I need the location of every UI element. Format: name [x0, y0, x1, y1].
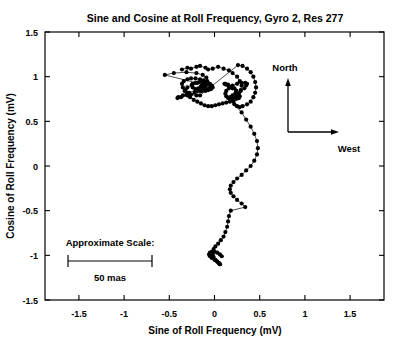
scale-bar-title: Approximate Scale: [66, 237, 155, 248]
chart-title: Sine and Cosine at Roll Frequency, Gyro … [87, 12, 344, 24]
compass-north-label: North [272, 62, 298, 73]
data-point [229, 209, 233, 213]
data-point [201, 73, 205, 77]
data-point [254, 85, 258, 89]
data-point [202, 103, 206, 107]
data-point [206, 104, 210, 108]
scatter-plot-svg: Sine and Cosine at Roll Frequency, Gyro … [0, 0, 396, 348]
data-point [211, 67, 215, 71]
data-point [181, 93, 185, 97]
x-tick-label: 0 [212, 309, 217, 319]
data-point [219, 238, 223, 242]
data-point [226, 96, 230, 100]
data-point [225, 225, 229, 229]
data-point [226, 219, 230, 223]
data-point [193, 88, 197, 92]
data-point [255, 152, 259, 156]
data-point [194, 65, 198, 69]
data-point [172, 71, 176, 75]
data-point [206, 67, 210, 71]
data-point [251, 75, 255, 79]
y-tick-label: 0.5 [25, 117, 38, 127]
data-point [221, 101, 225, 105]
data-point [185, 66, 189, 70]
data-point [229, 191, 233, 195]
data-point [240, 110, 244, 114]
data-point [226, 83, 230, 87]
data-point [193, 76, 197, 80]
data-point [228, 187, 232, 191]
data-point [198, 93, 202, 97]
data-point [243, 81, 247, 85]
y-tick-label: 0 [33, 162, 38, 172]
data-point [189, 92, 193, 96]
data-point [249, 100, 253, 104]
compass-west-label: West [338, 143, 361, 154]
data-point [243, 205, 247, 209]
plot-figure: Sine and Cosine at Roll Frequency, Gyro … [0, 0, 396, 348]
data-point [220, 254, 224, 258]
x-tick-label: 1 [302, 309, 307, 319]
x-tick-label: 1.5 [344, 309, 357, 319]
data-point [224, 100, 228, 104]
data-point [194, 71, 198, 75]
data-point [256, 146, 260, 150]
data-point [230, 71, 234, 75]
x-tick-label: -1.5 [71, 309, 87, 319]
data-point [199, 101, 203, 105]
x-tick-label: -1 [120, 309, 128, 319]
data-point [180, 67, 184, 71]
data-point [213, 103, 217, 107]
y-axis-label: Cosine of Roll Frequency (mV) [5, 93, 16, 239]
data-point [198, 64, 202, 68]
data-point [235, 82, 239, 86]
data-point [192, 98, 196, 102]
figure-background [0, 0, 396, 348]
data-point [251, 95, 255, 99]
data-point [240, 173, 244, 177]
data-point [240, 81, 244, 85]
x-axis-label: Sine of Roll Frequency (mV) [148, 325, 281, 336]
data-point [244, 117, 248, 121]
y-tick-label: -1 [30, 251, 38, 261]
data-point [195, 100, 199, 104]
scale-bar-value-label: 50 mas [94, 272, 126, 283]
data-point [195, 81, 199, 85]
data-point [249, 164, 253, 168]
x-tick-label: 0.5 [253, 309, 266, 319]
data-point [201, 80, 205, 84]
y-tick-label: 1 [33, 72, 38, 82]
data-point [190, 83, 194, 87]
data-point [253, 91, 257, 95]
data-point [235, 75, 239, 79]
data-point [231, 194, 235, 198]
y-tick-label: 1.5 [25, 28, 38, 38]
data-point [184, 70, 188, 74]
data-point [216, 65, 220, 69]
data-point [185, 91, 189, 95]
data-point [221, 234, 225, 238]
data-point [231, 180, 235, 184]
data-point [240, 201, 244, 205]
data-point [255, 139, 259, 143]
data-point [252, 159, 256, 163]
x-tick-label: -0.5 [162, 309, 178, 319]
data-point [245, 102, 249, 106]
data-point [204, 80, 208, 84]
data-point [240, 64, 244, 68]
data-point [182, 79, 186, 83]
data-point [194, 93, 198, 97]
data-point [227, 68, 231, 72]
data-point [249, 125, 253, 129]
data-point [189, 76, 193, 80]
data-point [217, 102, 221, 106]
data-point [244, 168, 248, 172]
data-point [176, 95, 180, 99]
data-point [210, 104, 214, 108]
data-point [229, 184, 233, 188]
data-point [249, 70, 253, 74]
data-point [253, 80, 257, 84]
data-point [236, 63, 240, 67]
data-point [227, 214, 231, 218]
data-point [221, 67, 225, 71]
